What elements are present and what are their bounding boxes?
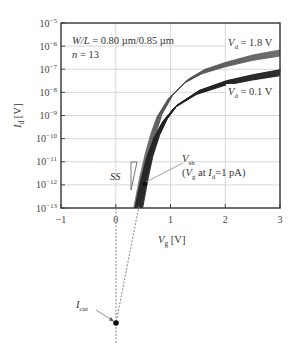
- y-axis-label: Id [V]: [12, 104, 26, 129]
- x-tick-label: −1: [56, 214, 67, 225]
- y-tick-label: 10−13: [36, 202, 57, 214]
- x-axis-label: Vg [V]: [158, 234, 185, 248]
- extrapolation-dashed-line: [116, 206, 139, 323]
- n-annotation: n = 13: [72, 49, 99, 60]
- transfer-curves: [134, 50, 281, 208]
- x-tick-label: 2: [223, 214, 228, 225]
- y-tick-label: 10−5: [40, 17, 58, 29]
- y-tick-label: 10−10: [36, 132, 57, 144]
- y-tick-label: 10−8: [40, 86, 58, 98]
- id-vg-chart: 10−1310−1210−1110−1010−910−810−710−610−5…: [0, 0, 295, 357]
- ss-label: SS: [110, 171, 121, 182]
- vsh-description: (Vg at Id=1 pA): [182, 167, 246, 181]
- x-tick-labels: −10123: [56, 214, 283, 225]
- y-tick-label: 10−6: [40, 40, 58, 52]
- icut-point: [113, 320, 119, 326]
- ss-slope-triangle: [131, 162, 137, 190]
- vsh-label: Vsh: [182, 153, 195, 167]
- y-tick-label: 10−11: [36, 155, 57, 167]
- vsh-point: [143, 182, 148, 187]
- icut-arrowhead: [109, 317, 114, 322]
- x-tick-label: 1: [168, 214, 173, 225]
- vsh-leader-line: [146, 163, 183, 182]
- y-tick-label: 10−12: [36, 178, 57, 190]
- y-tick-label: 10−7: [40, 63, 58, 75]
- wl-annotation: W/L = 0.80 µm/0.85 µm: [72, 35, 174, 46]
- y-tick-labels: 10−1310−1210−1110−1010−910−810−710−610−5: [36, 17, 57, 214]
- icut-label: Icut: [75, 299, 88, 313]
- x-tick-label: 3: [278, 214, 283, 225]
- y-tick-label: 10−9: [40, 109, 58, 121]
- icut-arrow: [96, 310, 112, 320]
